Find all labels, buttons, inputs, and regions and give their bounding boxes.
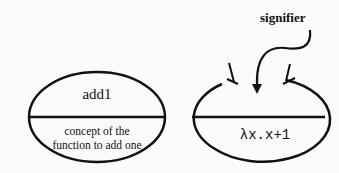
left-signified-text: concept of the function to add one (30, 124, 164, 152)
signified-line-1: concept of the (30, 124, 164, 138)
signifier-annotation: signifier (260, 10, 306, 26)
left-gap-tick (229, 63, 234, 82)
signifier-arrow (257, 30, 310, 85)
diagram-canvas: signifier add1 concept of the function t… (0, 0, 339, 173)
right-sign-ellipse (194, 80, 330, 162)
signified-line-2: function to add one (30, 138, 164, 152)
left-signifier-text: add1 (57, 86, 137, 103)
arrowhead-icon (252, 84, 262, 94)
right-gap-tick (286, 64, 290, 81)
right-signified-text: λx.x+1 (220, 127, 310, 143)
